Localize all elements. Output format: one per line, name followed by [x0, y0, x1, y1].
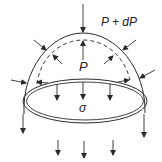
- stress-label: σ: [79, 101, 87, 115]
- diagram-canvas: P + dP P σ: [0, 0, 162, 162]
- outer-pressure-label: P + dP: [101, 15, 137, 29]
- dome-diagram: P + dP P σ: [0, 0, 162, 162]
- inner-pressure-label: P: [79, 59, 88, 74]
